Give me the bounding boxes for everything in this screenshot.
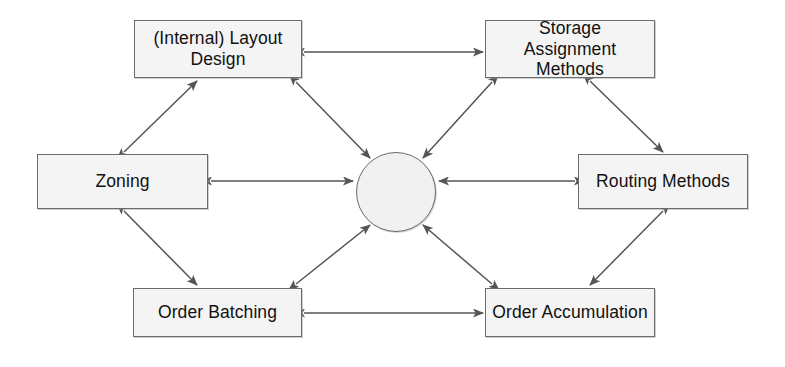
node-order-accumulation[interactable]: Order Accumulation	[485, 288, 655, 337]
node-zoning[interactable]: Zoning	[37, 154, 208, 209]
diagram-canvas: (Internal) Layout Design Storage Assignm…	[0, 0, 785, 367]
central-hub-node	[356, 152, 436, 232]
node-label-routing-methods: Routing Methods	[590, 171, 736, 192]
node-storage-assignment-methods[interactable]: Storage Assignment Methods	[485, 20, 655, 78]
connector-order-accumulation-to-hub	[423, 225, 492, 284]
connector-zoning-to-order-batching	[124, 211, 197, 285]
connector-storage-to-routing	[590, 81, 663, 152]
connector-zoning-to-layout	[124, 81, 197, 152]
connector-order-batching-to-hub	[296, 225, 370, 284]
connector-routing-to-order-accumulation	[590, 211, 663, 285]
connector-storage-to-hub	[423, 82, 492, 158]
node-order-batching[interactable]: Order Batching	[133, 288, 302, 337]
node-label-zoning: Zoning	[89, 171, 155, 192]
connector-layout-to-hub	[296, 82, 370, 158]
node-internal-layout-design[interactable]: (Internal) Layout Design	[134, 20, 302, 78]
node-label-order-batching: Order Batching	[152, 302, 283, 323]
node-label-storage-assignment-methods: Storage Assignment Methods	[486, 18, 654, 80]
node-routing-methods[interactable]: Routing Methods	[578, 154, 748, 209]
node-label-internal-layout-design: (Internal) Layout Design	[147, 28, 288, 69]
node-label-order-accumulation: Order Accumulation	[486, 302, 653, 323]
